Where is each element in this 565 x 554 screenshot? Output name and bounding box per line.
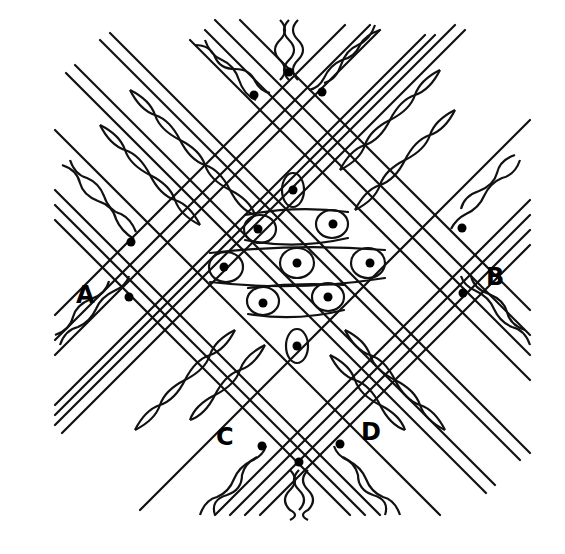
lace-diagram: A B C D <box>0 0 565 554</box>
pin-dot-icon <box>324 293 333 302</box>
twisted-pairs <box>100 70 455 430</box>
pin-dot-icon <box>329 220 338 229</box>
label-c: C <box>216 425 234 449</box>
pin-dot-icon <box>250 91 259 100</box>
pin-dot-icon <box>289 186 298 195</box>
pin-dot-icon <box>318 88 327 97</box>
pin-dot-icon <box>254 225 263 234</box>
label-b: B <box>486 265 504 289</box>
pin-dot-icon <box>366 259 375 268</box>
pin-dot-icon <box>459 289 468 298</box>
pin-dot-icon <box>293 342 302 351</box>
pin-dot-icon <box>220 263 229 272</box>
pin-dot-icon <box>293 259 302 268</box>
pin-dot-icon <box>336 440 345 449</box>
pin-dot-icon <box>258 442 267 451</box>
label-d: D <box>361 420 381 444</box>
label-a: A <box>76 283 95 307</box>
lace-drawing <box>0 0 565 554</box>
pin-dot-icon <box>125 293 134 302</box>
pin-dot-icon <box>295 458 304 467</box>
pin-dot-icon <box>285 68 294 77</box>
pin-dot-icon <box>259 299 268 308</box>
pin-dot-icon <box>127 238 136 247</box>
pin-dot-icon <box>458 224 467 233</box>
central-ground <box>209 173 385 363</box>
